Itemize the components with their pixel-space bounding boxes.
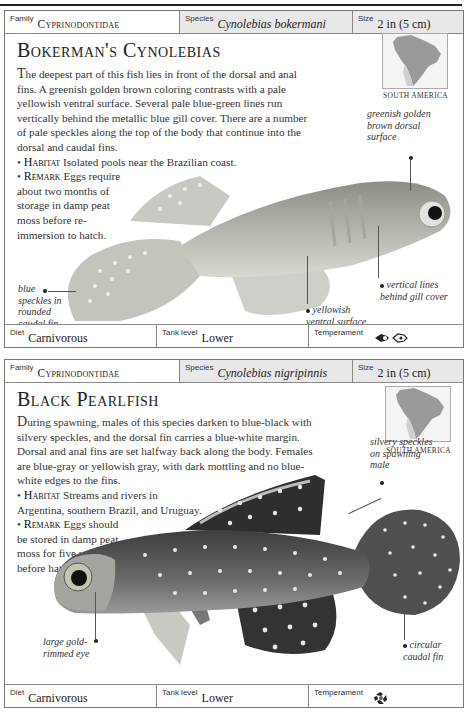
habitat-line: • Habitat Isolated pools near the Brazil…	[17, 155, 317, 170]
annotation-gill-lines: vertical lines behind gill cover	[380, 279, 450, 302]
size-value: 2 in (5 cm)	[378, 17, 431, 31]
annotation-dorsal-surface: greenish golden brown dorsal surface	[367, 108, 437, 143]
annotation-pointer-dot	[380, 481, 384, 485]
species-cell: Species Cynolebias nigripinnis	[180, 360, 353, 382]
annotation-leader-line	[95, 592, 96, 640]
range-map	[385, 386, 451, 442]
species-card-bokermans-cynolebias: Family Cyprinodontidae Species Cynolebia…	[4, 10, 464, 348]
family-value: Cyprinodontidae	[38, 367, 120, 379]
tank-level-cell: Tank level Lower	[157, 685, 309, 707]
range-map	[382, 33, 448, 89]
tank-level-cell: Tank level Lower	[157, 325, 309, 347]
description-text: The deepest part of this fish lies in fr…	[17, 67, 317, 155]
species-value: Cynolebias bokermani	[217, 17, 325, 31]
south-america-map-icon	[386, 387, 450, 441]
species-label: Species	[185, 363, 213, 372]
page-top-rule	[0, 4, 462, 6]
diet-label: Diet	[10, 688, 24, 697]
family-value: Cyprinodontidae	[38, 18, 120, 30]
species-value: Cynolebias nigripinnis	[217, 366, 327, 380]
annotation-pointer-dot	[43, 289, 47, 293]
species-cell: Species Cynolebias bokermani	[180, 11, 353, 33]
annotation-leader-line	[48, 291, 76, 292]
temperament-cell: Temperament	[309, 685, 463, 707]
south-america-map-icon	[383, 34, 447, 88]
temperament-label: Temperament	[314, 688, 363, 697]
annotation-caudal-fin: circular caudal fin	[403, 639, 461, 662]
size-cell: Size 2 in (5 cm)	[353, 11, 463, 33]
annotation-leader-line	[378, 226, 379, 278]
footer-bar: Diet Carnivorous Tank level Lower Temper…	[5, 684, 463, 707]
diet-label: Diet	[10, 328, 24, 337]
family-label: Family	[10, 363, 34, 372]
tank-level-label: Tank level	[162, 688, 198, 697]
header-bar: Family Cyprinodontidae Species Cynolebia…	[5, 11, 463, 34]
aggressive-fish-circle-icon	[373, 690, 389, 706]
size-label: Size	[358, 363, 374, 372]
footer-bar: Diet Carnivorous Tank level Lower Temper…	[5, 324, 463, 347]
black-pearlfish-image	[45, 475, 465, 665]
annotation-silvery-speckles: silvery speckles on spawning male	[370, 436, 440, 471]
map-region-label: SOUTH AMERICA	[383, 91, 448, 100]
annotation-leader-line	[307, 256, 308, 304]
diet-cell: Diet Carnivorous	[5, 685, 157, 707]
species-label: Species	[185, 14, 213, 23]
header-bar: Family Cyprinodontidae Species Cynolebia…	[5, 360, 463, 383]
peaceful-fish-group-icon	[373, 331, 409, 345]
species-title: Bokerman's Cynolebias	[17, 39, 221, 62]
tank-level-label: Tank level	[162, 328, 198, 337]
size-value: 2 in (5 cm)	[378, 366, 431, 380]
temperament-cell: Temperament	[309, 325, 463, 347]
family-cell: Family Cyprinodontidae	[5, 360, 180, 382]
annotation-leader-line	[404, 612, 405, 640]
family-label: Family	[10, 14, 34, 23]
diet-value: Carnivorous	[28, 331, 87, 345]
family-cell: Family Cyprinodontidae	[5, 11, 180, 33]
tank-level-value: Lower	[202, 691, 233, 705]
size-label: Size	[358, 14, 374, 23]
tank-level-value: Lower	[202, 331, 233, 345]
temperament-label: Temperament	[314, 328, 363, 337]
annotation-leader-line	[410, 159, 411, 191]
annotation-caudal-speckles: blue speckles in rounded caudal fin	[18, 283, 66, 329]
size-cell: Size 2 in (5 cm)	[353, 360, 463, 382]
species-title: Black Pearlfish	[17, 388, 159, 411]
diet-cell: Diet Carnivorous	[5, 325, 157, 347]
species-card-black-pearlfish: Family Cyprinodontidae Species Cynolebia…	[4, 359, 464, 708]
diet-value: Carnivorous	[28, 691, 87, 705]
